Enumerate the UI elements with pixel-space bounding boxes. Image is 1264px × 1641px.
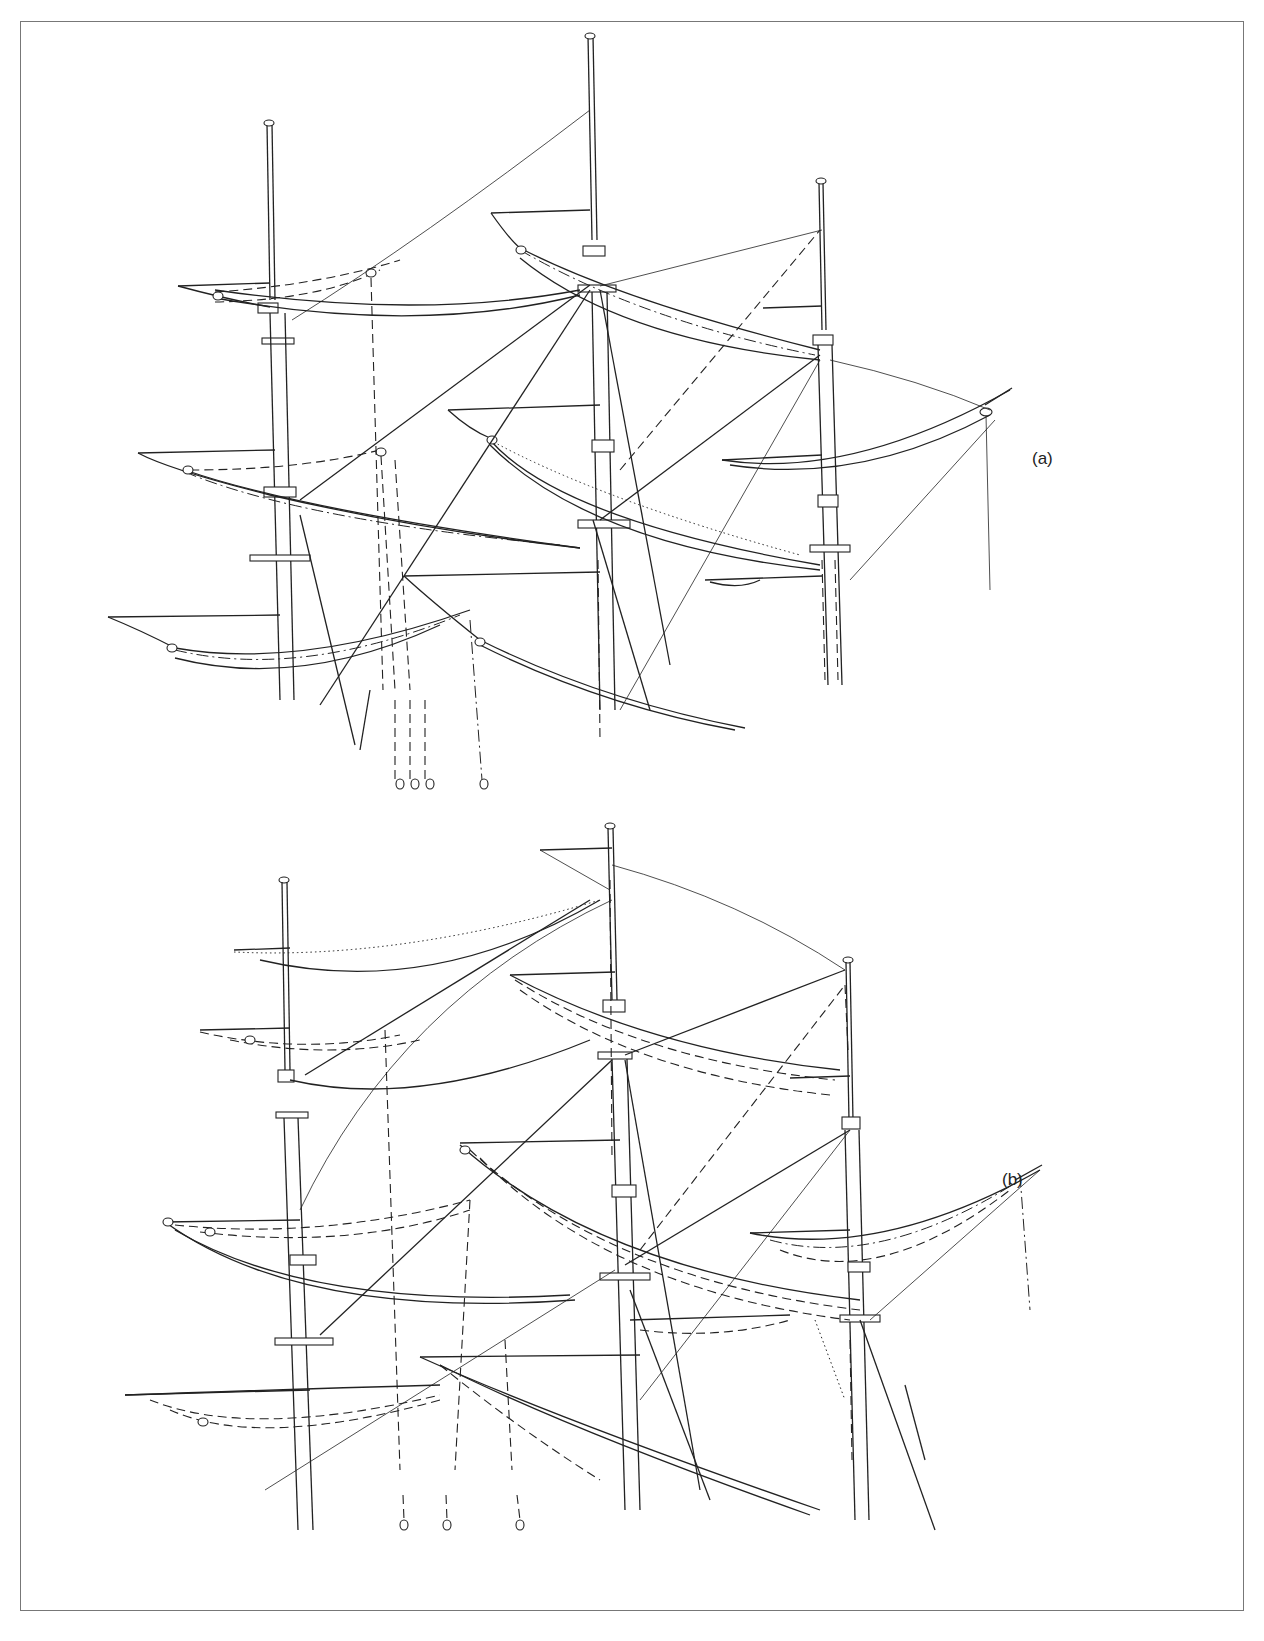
mizzen-yards	[705, 306, 1012, 586]
panel-label-b: (b)	[1002, 1170, 1023, 1190]
fore-yards-b	[125, 900, 600, 1428]
mizzen-mast-b	[840, 957, 880, 1520]
stays-b	[265, 865, 1040, 1530]
fore-yards	[108, 260, 580, 669]
mizzen-yards-b	[630, 1076, 1042, 1333]
panel-b-drawing	[125, 823, 1042, 1530]
fore-mast	[250, 120, 310, 700]
main-yards-b	[420, 848, 860, 1515]
panel-a-drawing	[108, 33, 1012, 789]
panel-label-a: (a)	[1032, 449, 1053, 469]
leads-b	[385, 880, 1030, 1530]
stays-a	[292, 110, 995, 710]
main-mast	[578, 33, 630, 710]
main-mast-b	[598, 823, 650, 1510]
fore-mast-b	[275, 877, 333, 1530]
mizzen-mast	[810, 178, 850, 685]
rigging-diagram	[0, 0, 1264, 1641]
